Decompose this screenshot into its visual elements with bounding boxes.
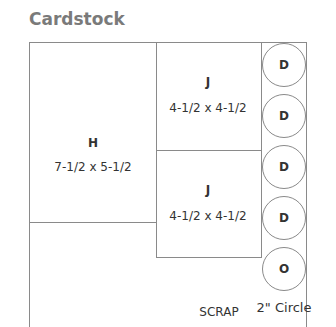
circle-d-2: D xyxy=(262,94,306,138)
piece-h-size: 7-1/2 x 5-1/2 xyxy=(54,160,131,174)
h-bottom-edge xyxy=(29,222,157,223)
circle-d-1: D xyxy=(262,43,306,87)
right-edge xyxy=(306,42,307,327)
circle-d-4: D xyxy=(262,196,306,240)
piece-j1-size: 4-1/2 x 4-1/2 xyxy=(169,101,246,115)
circle-o: O xyxy=(262,247,306,291)
circle-d-3: D xyxy=(262,145,306,189)
piece-h-letter: H xyxy=(88,136,98,150)
left-edge xyxy=(29,42,30,327)
j-split xyxy=(156,150,262,151)
diagram-title: Cardstock xyxy=(29,9,125,29)
piece-j2-letter: J xyxy=(206,183,210,197)
piece-j2-size: 4-1/2 x 4-1/2 xyxy=(169,209,246,223)
top-edge xyxy=(29,42,307,43)
j-bottom-edge xyxy=(156,257,262,258)
circle-caption: 2" Circle xyxy=(257,300,312,315)
piece-j1-letter: J xyxy=(206,75,210,89)
scrap-label: SCRAP xyxy=(199,305,238,319)
